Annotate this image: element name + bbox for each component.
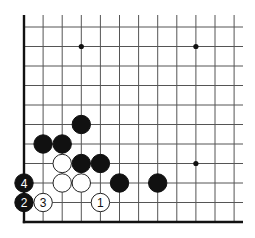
white-stone-move-1: 1 [91, 193, 109, 211]
star-point [193, 44, 198, 49]
stone-circle [72, 174, 90, 192]
black-stone [53, 135, 71, 153]
stone-circle [110, 174, 128, 192]
black-stone [110, 174, 128, 192]
black-stone [72, 154, 90, 172]
stone-circle [72, 115, 90, 133]
black-stone [91, 154, 109, 172]
white-stone [72, 174, 90, 192]
star-point [79, 44, 84, 49]
white-stone [53, 154, 71, 172]
stone-circle [53, 135, 71, 153]
stone-circle [149, 174, 167, 192]
black-stone [34, 135, 52, 153]
black-stone-move-2: 2 [15, 193, 33, 211]
move-number: 3 [40, 196, 47, 210]
black-stone [72, 115, 90, 133]
stone-circle [53, 174, 71, 192]
stone-circle [53, 154, 71, 172]
stone-circle [72, 154, 90, 172]
move-number: 1 [97, 196, 104, 210]
white-stone [53, 174, 71, 192]
move-number: 2 [21, 196, 28, 210]
white-stone-move-3: 3 [34, 193, 52, 211]
stone-circle [34, 135, 52, 153]
star-point [193, 161, 198, 166]
move-number: 4 [21, 177, 28, 191]
stone-circle [91, 154, 109, 172]
black-stone [149, 174, 167, 192]
go-board: 4231 [0, 0, 255, 238]
black-stone-move-4: 4 [15, 174, 33, 192]
